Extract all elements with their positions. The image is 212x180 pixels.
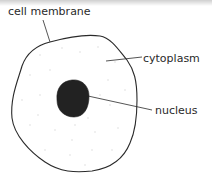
cytoplasm-leader-line (106, 57, 142, 61)
label-cell-membrane: cell membrane (8, 5, 91, 18)
nucleus-leader-line (88, 96, 152, 110)
membrane-leader-line (43, 20, 50, 42)
label-cytoplasm: cytoplasm (143, 52, 200, 65)
cell-diagram: cell membrane cytoplasm nucleus (0, 0, 212, 180)
nucleus-blob (57, 80, 89, 117)
label-nucleus: nucleus (155, 104, 198, 117)
